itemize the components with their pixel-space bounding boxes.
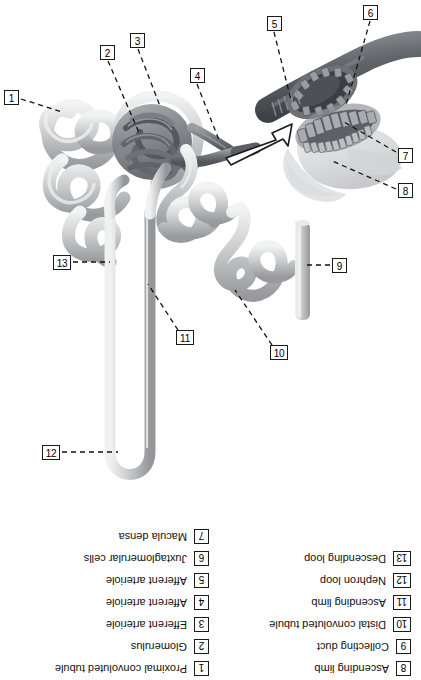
legend-label: Juxtaglomerular cells <box>84 553 187 565</box>
legend-label: Macula densa <box>119 531 188 543</box>
legend-label: Nephron loop <box>320 575 386 587</box>
legend-label: Ascending limb <box>311 597 386 609</box>
legend-label: Proximal convoluted tubule <box>55 663 187 675</box>
legend-number: 3 <box>194 618 209 633</box>
legend-label: Efferent arteriole <box>106 619 187 631</box>
legend-label: Glomerulus <box>131 641 187 653</box>
legend-number: 6 <box>194 552 209 567</box>
legend-number: 8 <box>396 662 411 677</box>
legend-item[interactable]: 2 Glomerulus <box>9 636 209 658</box>
legend-number: 13 <box>393 552 411 567</box>
callout-2[interactable]: 2 <box>100 45 115 60</box>
legend-item[interactable]: 6 Juxtaglomerular cells <box>9 548 209 570</box>
callout-9[interactable]: 9 <box>332 258 347 273</box>
callout-3[interactable]: 3 <box>130 33 145 48</box>
callout-10[interactable]: 10 <box>270 345 288 360</box>
legend-number: 11 <box>393 596 411 611</box>
legend-number: 2 <box>194 640 209 655</box>
legend-number: 9 <box>396 640 411 655</box>
legend-label: Distal convoluted tubule <box>269 619 386 631</box>
legend-number: 4 <box>194 596 209 611</box>
legend-number: 1 <box>194 662 209 677</box>
callout-5[interactable]: 5 <box>267 16 282 31</box>
legend-label: Afferent arteriole <box>106 597 187 609</box>
legend-item[interactable]: 7 Macula densa <box>9 526 209 548</box>
nephron-figure-page: 1 2 3 4 5 6 7 8 9 10 11 12 13 8 Ascendin… <box>0 0 421 680</box>
anatomy-illustration: 1 2 3 4 5 6 7 8 9 10 11 12 13 <box>0 0 421 512</box>
legend-item[interactable]: 9 Collecting duct <box>215 636 411 658</box>
legend-label: Descending loop <box>304 553 386 565</box>
legend-column-right: 1 Proximal convoluted tubule 2 Glomerulu… <box>9 526 209 680</box>
collecting-duct <box>295 220 310 320</box>
callout-13[interactable]: 13 <box>53 255 71 270</box>
legend-item[interactable]: 1 Proximal convoluted tubule <box>9 658 209 680</box>
legend-item[interactable]: 10 Distal convoluted tubule <box>215 614 411 636</box>
glomerulus <box>112 104 192 180</box>
legend-number: 10 <box>393 618 411 633</box>
legend-number: 7 <box>194 530 209 545</box>
legend-label: Collecting duct <box>317 641 389 653</box>
legend-number: 5 <box>194 574 209 589</box>
legend-item[interactable]: 13 Descending loop <box>215 548 411 570</box>
legend-item[interactable]: 5 Afferent arteriole <box>9 570 209 592</box>
callout-4[interactable]: 4 <box>190 68 205 83</box>
legend-number: 12 <box>393 574 411 589</box>
legend-item[interactable]: 8 Ascending limb <box>215 658 411 680</box>
legend-item[interactable]: 12 Nephron loop <box>215 570 411 592</box>
legend-item[interactable]: 3 Efferent arteriole <box>9 614 209 636</box>
callout-12[interactable]: 12 <box>42 445 60 460</box>
callout-6[interactable]: 6 <box>363 5 378 20</box>
juxtaglomerular-apparatus-inset <box>268 44 418 202</box>
legend-label: Ascending limb <box>314 663 389 675</box>
callout-11[interactable]: 11 <box>176 330 194 345</box>
callout-7[interactable]: 7 <box>398 148 413 163</box>
legend-item[interactable]: 4 Afferent arteriole <box>9 592 209 614</box>
legend-label: Afferent arteriole <box>106 575 187 587</box>
callout-8[interactable]: 8 <box>398 183 413 198</box>
legend: 8 Ascending limb 9 Collecting duct 10 Di… <box>0 512 421 680</box>
callout-1[interactable]: 1 <box>4 90 19 105</box>
legend-item[interactable]: 11 Ascending limb <box>215 592 411 614</box>
legend-column-left: 8 Ascending limb 9 Collecting duct 10 Di… <box>215 548 411 680</box>
